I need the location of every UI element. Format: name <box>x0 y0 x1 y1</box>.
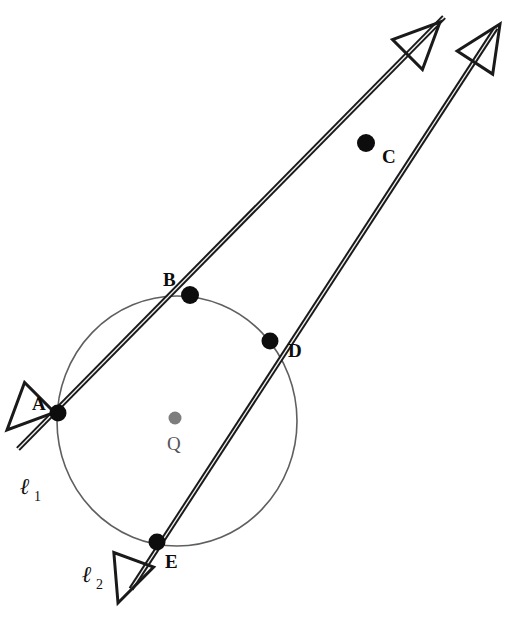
line-l2 <box>131 28 496 589</box>
line-l1-group <box>17 16 445 450</box>
circle-center-dot-Q <box>169 412 182 425</box>
geometry-figure: Q A B C D E ℓ 1 ℓ 2 <box>0 0 520 617</box>
line-label-l2: ℓ <box>82 562 92 587</box>
point-label-C: C <box>382 146 396 167</box>
point-B <box>181 286 199 304</box>
point-label-A: A <box>32 393 46 414</box>
line-l2-edge-lower <box>130 27 495 588</box>
points-group <box>50 134 376 551</box>
point-C <box>357 134 375 152</box>
line-label-l1: ℓ <box>20 474 30 499</box>
point-label-D: D <box>288 340 302 361</box>
point-E <box>149 534 166 551</box>
line-label-l1-subscript: 1 <box>34 489 41 504</box>
point-label-B: B <box>163 269 176 290</box>
line-l1 <box>18 17 444 449</box>
geometry-canvas: Q A B C D E ℓ 1 ℓ 2 <box>0 0 520 617</box>
arrowheads-group <box>7 22 500 603</box>
line-l2-edge-upper <box>132 29 497 590</box>
point-D <box>262 333 279 350</box>
point-label-E: E <box>165 551 178 572</box>
line-l2-group <box>130 27 498 590</box>
line-label-l2-subscript: 2 <box>96 577 103 592</box>
point-label-Q: Q <box>167 433 181 454</box>
point-A <box>50 405 67 422</box>
line-l1-edge-upper <box>19 18 445 450</box>
line-l1-edge-lower <box>17 16 443 448</box>
